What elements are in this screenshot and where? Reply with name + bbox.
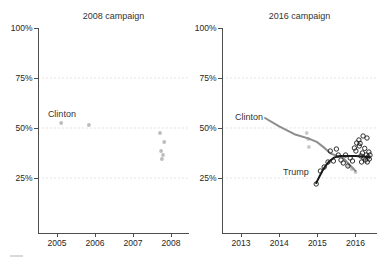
poll-chart-svg: 25%50%75%100%20052006200720082008 campai… [0,0,386,259]
y-tick-label: 75% [199,73,216,83]
y-tick-label: 75% [15,73,32,83]
panel-title: 2008 campaign [83,11,145,21]
poll-dot [159,149,163,153]
label-clinton: Clinton [48,109,76,119]
x-tick-label: 2013 [232,238,251,248]
x-tick-label: 2015 [308,238,327,248]
poll-open-circle [331,159,335,163]
label-clinton: Clinton [235,112,263,122]
y-tick-label: 50% [15,123,32,133]
y-tick-label: 25% [15,173,32,183]
poll-open-circle [350,159,354,163]
x-tick-label: 2014 [270,238,289,248]
figure-dual-panel-poll-chart: 25%50%75%100%20052006200720082008 campai… [0,0,386,259]
poll-open-circle [339,158,343,162]
poll-dot [158,131,162,135]
axes [38,28,189,233]
y-tick-label: 100% [195,23,217,33]
label-trump: Trump [283,167,309,177]
axes [222,28,377,233]
poll-open-circle [334,147,338,151]
poll-dot [162,140,166,144]
y-tick-label: 25% [199,173,216,183]
y-tick-label: 50% [199,123,216,133]
poll-dot [307,145,311,149]
panel-2016-campaign: 25%50%75%100%20132014201520162016 campai… [195,11,377,248]
x-tick-label: 2008 [162,238,181,248]
x-tick-label: 2016 [346,238,365,248]
poll-dot [160,157,164,161]
poll-dot [305,131,309,135]
panel-2008-campaign: 25%50%75%100%20052006200720082008 campai… [11,11,189,248]
y-tick-label: 100% [11,23,33,33]
series-clinton-trend [265,118,356,171]
series-clinton-polls [59,121,166,161]
poll-dot [161,153,165,157]
poll-dot [87,123,91,127]
x-tick-label: 2007 [124,238,143,248]
poll-open-circle [363,146,367,150]
poll-open-circle [365,136,369,140]
x-tick-label: 2005 [48,238,67,248]
x-tick-label: 2006 [86,238,105,248]
poll-open-circle [341,161,345,165]
panel-title: 2016 campaign [269,11,331,21]
trend-line-clinton-trend [265,118,356,171]
poll-dot [59,121,63,125]
cropped-caption-smudge [10,255,23,257]
